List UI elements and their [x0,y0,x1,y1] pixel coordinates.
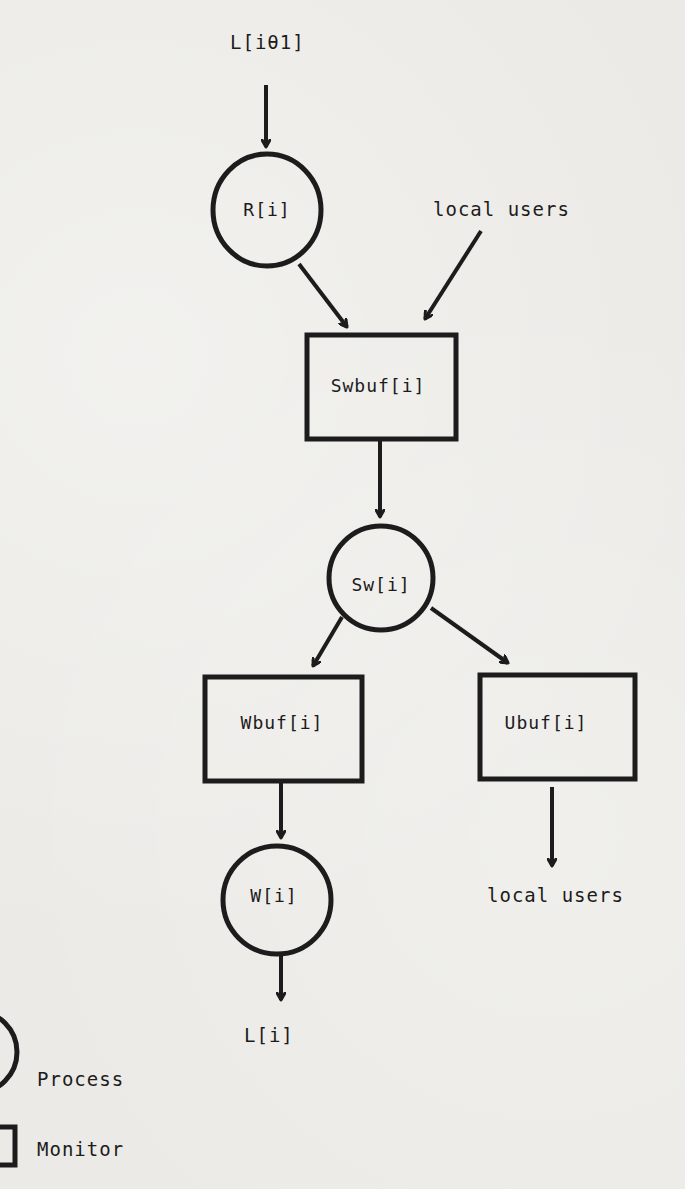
legend-monitor-box-icon [0,1127,15,1165]
dataflow-diagram [0,0,685,1189]
local-users-output-label: local users [487,886,624,905]
swbuf-monitor-label: Swbuf[i] [331,377,426,395]
input-link-label: L[iθ1] [230,33,305,52]
writer-process-label: W[i] [250,887,297,905]
edge-switch-to-wbuf [313,617,342,666]
legend-monitor-label: Monitor [37,1140,124,1159]
diagram-page: L[iθ1] R[i] local users Swbuf[i] Sw[i] W… [0,0,685,1189]
output-link-label: L[i] [244,1026,294,1045]
edge-switch-to-ubuf [431,608,508,663]
legend-process-circle-icon [0,1011,17,1093]
switch-process-label: Sw[i] [351,576,410,594]
legend-process-label: Process [37,1070,124,1089]
ubuf-monitor-label: Ubuf[i] [505,714,588,732]
edge-local-users-to-swbuf [425,231,481,319]
local-users-input-label: local users [433,200,570,219]
edge-reader-to-swbuf [299,264,347,327]
reader-process-label: R[i] [243,201,290,219]
wbuf-monitor-label: Wbuf[i] [241,714,324,732]
